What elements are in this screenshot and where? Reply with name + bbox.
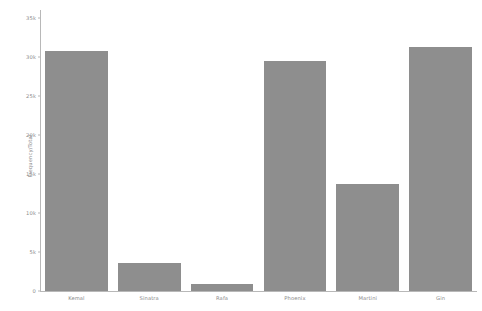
bar-group: Gin (404, 10, 477, 291)
y-tick-label: 25k (26, 93, 40, 99)
bar-series: KemalSinatraRafaPhoenixMartiniGin (40, 10, 477, 291)
bar (118, 263, 181, 291)
y-tick-label: 15k (26, 171, 40, 177)
bar-group: Phoenix (259, 10, 332, 291)
bar (191, 284, 254, 291)
y-tick-label: 20k (26, 132, 40, 138)
bar-group: Rafa (186, 10, 259, 291)
bar-group: Kemal (40, 10, 113, 291)
y-tick-label: 0 (33, 288, 40, 294)
bar (45, 51, 108, 291)
x-tick-label: Martini (331, 295, 404, 301)
x-tick-label: Phoenix (259, 295, 332, 301)
y-tick-label: 35k (26, 15, 40, 21)
bar-group: Martini (331, 10, 404, 291)
x-axis-line (40, 291, 477, 292)
bar (336, 184, 399, 291)
plot-area: 05k10k15k20k25k30k35k KemalSinatraRafaPh… (40, 10, 477, 291)
y-tick-label: 5k (29, 249, 40, 255)
bar-group: Sinatra (113, 10, 186, 291)
bar (409, 47, 472, 291)
bar (264, 61, 327, 291)
x-tick-label: Gin (404, 295, 477, 301)
bar-chart: Frequency/Total 05k10k15k20k25k30k35k Ke… (0, 0, 482, 311)
x-tick-label: Sinatra (113, 295, 186, 301)
x-tick-label: Rafa (186, 295, 259, 301)
y-tick-label: 30k (26, 54, 40, 60)
x-tick-label: Kemal (40, 295, 113, 301)
y-tick-label: 10k (26, 210, 40, 216)
